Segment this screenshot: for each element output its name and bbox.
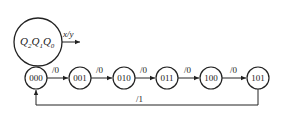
state-010: 010	[114, 74, 134, 83]
state-001: 001	[70, 74, 90, 83]
state-101: 101	[248, 74, 268, 83]
legend-io-label: x/y	[63, 30, 74, 39]
state-000: 000	[26, 74, 46, 83]
state-100: 100	[201, 74, 221, 83]
transition-label-001-010: /0	[96, 66, 103, 75]
arrow-101-000	[36, 89, 258, 105]
transition-label-101-000: /1	[136, 95, 143, 104]
state-011: 011	[157, 74, 177, 83]
transition-label-010-011: /0	[140, 66, 147, 75]
transition-label-011-100: /0	[184, 66, 191, 75]
legend-state-label: Q2Q1Q0	[20, 35, 54, 50]
transition-label-000-001: /0	[52, 66, 59, 75]
transition-label-100-101: /0	[230, 66, 237, 75]
